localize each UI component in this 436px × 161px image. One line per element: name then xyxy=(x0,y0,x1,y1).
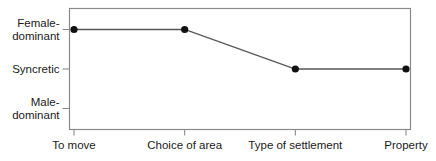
y-axis: Female-dominantSyncreticMale-dominant xyxy=(12,17,69,121)
data-series xyxy=(70,26,409,73)
y-tick-label: Male-dominant xyxy=(12,96,60,121)
series-line xyxy=(74,30,406,70)
data-point-marker xyxy=(402,65,409,72)
data-point-marker xyxy=(181,26,188,33)
y-tick-label: Female-dominant xyxy=(12,17,60,42)
x-tick-label: Choice of area xyxy=(147,139,222,151)
x-tick-label: Type of settlement xyxy=(248,139,343,151)
line-chart: Female-dominantSyncreticMale-dominant To… xyxy=(0,0,436,161)
x-tick-label: To move xyxy=(52,139,95,151)
data-point-marker xyxy=(70,26,77,33)
x-tick-label: Property xyxy=(384,139,428,151)
y-tick-label: Syncretic xyxy=(12,63,60,75)
data-point-marker xyxy=(292,65,299,72)
x-axis: To moveChoice of areaType of settlementP… xyxy=(52,130,428,152)
